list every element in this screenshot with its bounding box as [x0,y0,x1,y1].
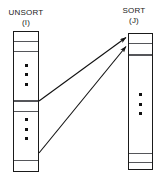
sort-label-name: SORT [108,6,160,16]
unsort-label-index: (I) [0,18,52,28]
unsort-array-column [13,31,39,172]
unsort-column-label: UNSORT (I) [0,8,52,28]
transfer-arrow-upper [39,38,126,102]
cell-divider [129,43,152,44]
cell-divider [14,100,38,101]
vertical-ellipsis-icon [129,93,152,115]
vertical-ellipsis-icon [14,64,38,86]
cell-divider [14,111,38,112]
cell-divider [129,153,152,154]
cell-divider [129,162,152,163]
unsort-label-name: UNSORT [0,8,52,18]
cell-divider [14,51,38,52]
cell-divider [14,160,38,161]
cell-divider [129,54,152,55]
sort-column-label: SORT (J) [108,6,160,26]
sort-label-index: (J) [108,16,160,26]
vertical-ellipsis-icon [14,118,38,140]
array-transfer-diagram: UNSORT (I) SORT (J) [0,0,162,178]
cell-divider [14,41,38,42]
transfer-arrow-lower [39,47,126,154]
sort-array-column [128,33,153,170]
